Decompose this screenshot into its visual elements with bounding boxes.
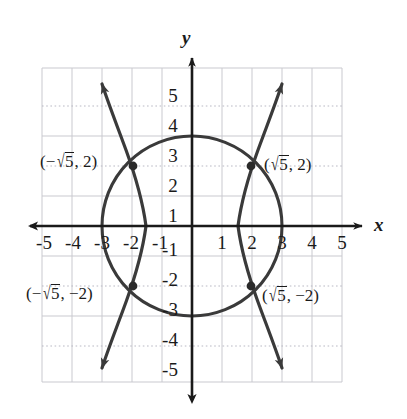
- y-tick-label--4: -4: [155, 330, 185, 349]
- intersection-dot-upper-left: [129, 162, 138, 171]
- x-tick-label-1: 1: [213, 233, 231, 252]
- y-value: 2: [297, 155, 306, 174]
- x-tick-label-5: 5: [333, 233, 351, 252]
- radical-sign: √: [57, 151, 65, 170]
- point-label-upper-left: (−√5, 2): [40, 152, 97, 170]
- x-tick-label-4: 4: [303, 233, 321, 252]
- point-label-upper-right: (√5, 2): [264, 155, 311, 173]
- separator: ,: [74, 152, 83, 171]
- point-label-lower-left: (−√5, −2): [26, 284, 93, 302]
- paren-close: ): [87, 284, 93, 303]
- separator: ,: [289, 155, 298, 174]
- y-tick-label-3: 3: [163, 146, 183, 165]
- radical-expression: √5: [270, 155, 289, 173]
- radical-sign: √: [269, 285, 277, 304]
- y-tick-label-1: 1: [163, 206, 183, 225]
- radical-sign: √: [43, 283, 51, 302]
- separator: ,: [287, 286, 296, 305]
- radical-expression: √5: [55, 152, 74, 170]
- x-tick-label-2: 2: [243, 233, 261, 252]
- x-tick-label--4: -4: [62, 233, 84, 252]
- radicand: 5: [51, 284, 61, 302]
- coordinate-plane: [0, 0, 407, 419]
- separator: ,: [60, 284, 69, 303]
- y-tick-label--2: -2: [155, 270, 185, 289]
- x-tick-label--2: -2: [120, 233, 142, 252]
- y-tick-label-5: 5: [163, 86, 183, 105]
- point-label-lower-right: (√5, −2): [262, 286, 319, 304]
- paren-close: ): [91, 152, 97, 171]
- y-value: −2: [295, 286, 313, 305]
- radical-expression: √5: [41, 284, 60, 302]
- minus-sign: −: [46, 152, 56, 171]
- y-tick-label--1: -1: [155, 240, 185, 259]
- radicand: 5: [277, 286, 287, 304]
- x-axis-label: x: [374, 215, 384, 234]
- intersection-dot-lower-left: [129, 282, 138, 291]
- y-tick-label--5: -5: [155, 360, 185, 379]
- y-value: −2: [69, 284, 87, 303]
- y-tick-label--3: -3: [155, 300, 185, 319]
- paren-close: ): [313, 286, 319, 305]
- radical-sign: √: [271, 154, 279, 173]
- y-axis-label: y: [182, 28, 190, 47]
- intersection-dot-upper-right: [247, 162, 256, 171]
- y-tick-label-4: 4: [163, 116, 183, 135]
- x-tick-label--3: -3: [91, 233, 113, 252]
- intersection-dot-lower-right: [247, 282, 256, 291]
- x-tick-label--5: -5: [33, 233, 55, 252]
- radical-expression: √5: [268, 286, 287, 304]
- radicand: 5: [279, 155, 289, 173]
- minus-sign: −: [32, 284, 42, 303]
- graph-figure: y x -5 -4 -3 -2 -1 1 2 3 4 5 5 4 3 2 1 -…: [0, 0, 407, 419]
- y-tick-label-2: 2: [163, 176, 183, 195]
- paren-close: ): [306, 155, 312, 174]
- radicand: 5: [65, 152, 75, 170]
- x-tick-label-3: 3: [273, 233, 291, 252]
